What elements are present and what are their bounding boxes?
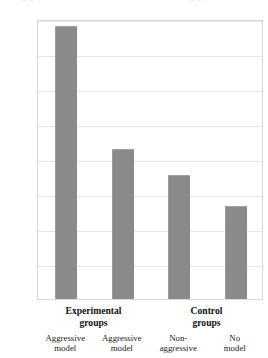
bar [55,26,77,299]
plot-area: 0246810121416 [37,20,263,300]
category-label-2: Aggressivemodel [94,333,150,354]
group-header-line: groups [34,317,154,329]
category-label-line: Aggressive [94,333,150,343]
category-label-4: Nomodel [207,333,263,354]
category-label-line: Non- [150,333,206,343]
category-label-line: model [37,343,93,353]
group-header-line: groups [147,317,267,329]
category-label-3: Non-aggressive [150,333,206,354]
bar [225,206,247,299]
bar [112,149,134,300]
x-axis-group-headers: ExperimentalgroupsControlgroups [37,305,263,331]
category-label-line: No [207,333,263,343]
group-header-line: Control [147,305,267,317]
group-header-line: Experimental [34,305,154,317]
category-label-line: aggressive [150,343,206,353]
bar-chart-figure: Mean imitative aggression scores for chi… [0,0,268,358]
category-label-line: Aggressive [37,333,93,343]
group-header-2: Controlgroups [147,305,267,328]
category-label-1: Aggressivemodel [37,333,93,354]
category-label-line: model [207,343,263,353]
x-axis-category-labels: AggressivemodelAggressivemodelNon-aggres… [37,333,263,358]
category-label-line: model [94,343,150,353]
group-header-1: Experimentalgroups [34,305,154,328]
gridline [38,21,262,22]
bar [168,175,190,299]
